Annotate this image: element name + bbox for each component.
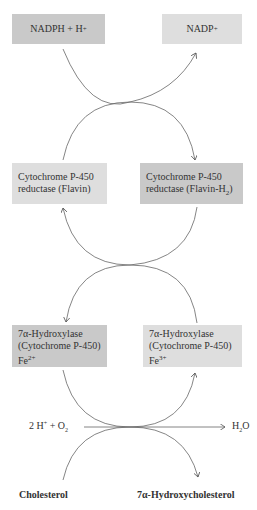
nadp-box: NADP+ [162,14,242,44]
nadp-label: NADP [186,23,213,35]
nadp-sup: + [214,23,218,35]
flavin-h2-box: Cytochrome P-450 reductase (Flavin-H2) [140,163,243,204]
fe2-line2: (Cytochrome P-450) [18,340,101,352]
fe3-line2: (Cytochrome P-450) [149,340,236,352]
flavin-box: Cytochrome P-450 reductase (Flavin) [12,163,107,204]
nadph-box: NADPH + H+ [12,14,105,44]
fe2-line1: 7α-Hydroxylase [18,328,101,340]
cholesterol-label: Cholesterol [19,489,68,500]
fe3-line1: 7α-Hydroxylase [149,328,236,340]
flavin-h2-text: reductase (Flavin-H [146,183,226,194]
nadph-sup: + [83,23,87,35]
fe3-fe: Fe [149,355,159,366]
water-label: H2O [232,420,249,433]
flavin-line2: reductase (Flavin) [18,183,101,195]
hydroxylase-fe2-box: 7α-Hydroxylase (Cytochrome P-450) Fe2+ [12,325,107,367]
fe2-fe: Fe [18,355,28,366]
water-o: O [242,420,249,431]
flavin-h2-line1: Cytochrome P-450 [146,171,237,183]
fe2-line3: Fe2+ [18,352,101,367]
hydroxylase-fe3-box: 7α-Hydroxylase (Cytochrome P-450) Fe3+ [143,325,242,367]
flavin-h2-line2: reductase (Flavin-H2) [146,183,237,199]
reaction-arrows [0,0,257,510]
product-label: 7α-Hydroxycholesterol [137,489,234,500]
flavin-line1: Cytochrome P-450 [18,171,101,183]
protons-text: 2 H [29,420,44,431]
oxygen-sub: 2 [65,427,68,433]
fe2-sup: 2+ [28,354,35,362]
oxygen-text: + O [47,420,65,431]
fe3-line3: Fe3+ [149,352,236,367]
nadph-label: NADPH + H [30,23,82,35]
fe3-sup: 3+ [159,354,166,362]
flavin-h2-close: ) [229,183,232,194]
protons-oxygen-label: 2 H+ + O2 [29,420,68,433]
